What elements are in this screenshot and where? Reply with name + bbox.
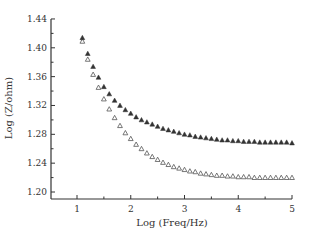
open-triangle-marker <box>161 160 166 164</box>
open-triangle-marker <box>144 151 149 155</box>
filled-triangle-marker <box>107 92 112 96</box>
y-tick-label: 1.20 <box>27 187 47 197</box>
filled-triangle-marker <box>220 138 225 142</box>
filled-triangle-marker <box>204 136 209 140</box>
filled-triangle-marker <box>150 122 155 126</box>
open-triangle-marker <box>279 175 284 179</box>
filled-triangle-marker <box>273 140 278 144</box>
filled-triangle-marker <box>252 139 257 143</box>
filled-triangle-marker <box>236 138 241 142</box>
filled-triangle-marker <box>171 129 176 133</box>
open-triangle-marker <box>155 157 160 161</box>
filled-triangle-marker <box>187 133 192 137</box>
filled-triangle-marker <box>263 140 268 144</box>
open-triangle-marker <box>101 97 106 101</box>
y-axis-title: Log (Z/ohm) <box>3 77 14 139</box>
open-triangle-marker <box>230 174 235 178</box>
filled-triangle-marker <box>214 137 219 141</box>
axes: 1.201.241.281.321.361.401.4412345 <box>27 14 295 214</box>
open-triangle-marker <box>273 175 278 179</box>
filled-triangle-marker <box>96 75 101 79</box>
filled-triangle-marker <box>177 130 182 134</box>
open-triangle-marker <box>139 146 144 150</box>
open-triangle-marker <box>96 85 101 89</box>
filled-triangle-marker <box>118 103 123 107</box>
open-triangle-marker <box>193 169 198 173</box>
open-triangle-marker <box>107 107 112 111</box>
filled-triangle-marker <box>268 140 273 144</box>
x-tick-label: 3 <box>182 204 188 214</box>
open-triangle-marker <box>209 172 214 176</box>
open-triangle-marker <box>263 175 268 179</box>
open-triangle-marker <box>150 154 155 158</box>
open-triangle-marker <box>187 169 192 173</box>
filled-triangle-marker <box>91 64 96 68</box>
open-triangle-marker <box>247 174 252 178</box>
open-triangle-marker <box>85 57 90 61</box>
open-triangle-marker <box>166 162 171 166</box>
filled-triangle-marker <box>144 120 149 124</box>
filled-triangle-marker <box>257 140 262 144</box>
y-tick-label: 1.40 <box>27 43 47 53</box>
open-triangle-marker <box>128 136 133 140</box>
filled-triangle-marker <box>166 128 171 132</box>
y-tick-label: 1.44 <box>27 14 47 24</box>
filled-triangle-marker <box>284 140 289 144</box>
series-open-triangles <box>80 39 294 180</box>
filled-triangle-marker <box>139 118 144 122</box>
open-triangle-marker <box>252 175 257 179</box>
filled-triangle-marker <box>198 135 203 139</box>
impedance-chart: 1.201.241.281.321.361.401.4412345 Log (F… <box>0 0 310 240</box>
open-triangle-marker <box>284 175 289 179</box>
filled-triangle-marker <box>182 132 187 136</box>
x-tick-label: 2 <box>128 204 134 214</box>
filled-triangle-marker <box>193 134 198 138</box>
open-triangle-marker <box>220 173 225 177</box>
y-tick-label: 1.36 <box>27 72 47 82</box>
filled-triangle-marker <box>123 107 128 111</box>
filled-triangle-marker <box>101 84 106 88</box>
y-tick-label: 1.32 <box>27 100 47 110</box>
filled-triangle-marker <box>230 138 235 142</box>
filled-triangle-marker <box>247 139 252 143</box>
filled-triangle-marker <box>112 98 117 102</box>
filled-triangle-marker <box>80 35 85 39</box>
series-filled-triangles <box>80 35 294 145</box>
open-triangle-marker <box>118 123 123 127</box>
y-tick-label: 1.28 <box>27 129 47 139</box>
open-triangle-marker <box>225 174 230 178</box>
open-triangle-marker <box>171 164 176 168</box>
open-triangle-marker <box>214 173 219 177</box>
filled-triangle-marker <box>241 139 246 143</box>
x-tick-label: 5 <box>289 204 295 214</box>
open-triangle-marker <box>91 72 96 76</box>
open-triangle-marker <box>257 175 262 179</box>
filled-triangle-marker <box>225 138 230 142</box>
open-triangle-marker <box>134 142 139 146</box>
filled-triangle-marker <box>161 126 166 130</box>
open-triangle-marker <box>198 171 203 175</box>
filled-triangle-marker <box>85 51 90 55</box>
filled-triangle-marker <box>209 136 214 140</box>
open-triangle-marker <box>268 175 273 179</box>
x-axis-title: Log (Freq/Hz) <box>136 217 208 228</box>
filled-triangle-marker <box>128 111 133 115</box>
open-triangle-marker <box>241 174 246 178</box>
filled-triangle-marker <box>290 141 295 145</box>
open-triangle-marker <box>290 175 295 179</box>
filled-triangle-marker <box>279 140 284 144</box>
open-triangle-marker <box>236 174 241 178</box>
filled-triangle-marker <box>134 115 139 119</box>
x-tick-label: 4 <box>235 204 241 214</box>
x-tick-label: 1 <box>74 204 80 214</box>
open-triangle-marker <box>177 166 182 170</box>
open-triangle-marker <box>123 130 128 134</box>
open-triangle-marker <box>182 167 187 171</box>
open-triangle-marker <box>204 172 209 176</box>
y-tick-label: 1.24 <box>27 158 47 168</box>
filled-triangle-marker <box>155 124 160 128</box>
open-triangle-marker <box>112 115 117 119</box>
